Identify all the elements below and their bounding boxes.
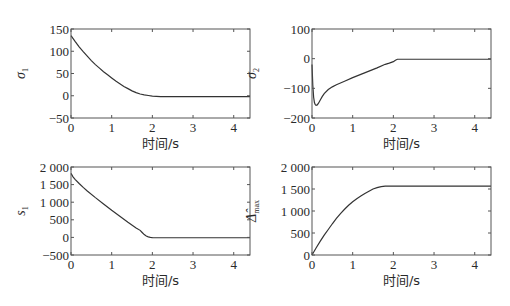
- y-tick-label: −50: [49, 111, 69, 126]
- x-tick-label: 2: [390, 120, 397, 135]
- y-tick-label: 150: [50, 22, 70, 37]
- y-tick-label: −500: [42, 248, 69, 263]
- y-tick-label: 0: [304, 51, 311, 66]
- x-tick-label: 3: [190, 257, 197, 272]
- x-tick-label: 3: [431, 120, 438, 135]
- y-tick-label: 100: [291, 22, 311, 37]
- x-axis-label: 时间/s: [142, 136, 179, 151]
- y-tick-label: 1 000: [40, 195, 69, 210]
- y-axis-label: Δ̂max: [244, 200, 261, 223]
- data-line: [312, 186, 491, 255]
- x-tick-label: 2: [149, 257, 156, 272]
- y-axis-label: s1: [13, 206, 30, 215]
- x-tick-label: 1: [108, 257, 115, 272]
- y-tick-label: −100: [283, 81, 310, 96]
- x-axis-label: 时间/s: [142, 273, 179, 288]
- data-line: [71, 36, 250, 97]
- subplot-sigma1: 01234−50050100150时间/sσ1: [13, 22, 250, 152]
- x-tick-label: 4: [230, 120, 237, 135]
- y-tick-label: 0: [63, 88, 70, 103]
- y-tick-label: 0: [63, 230, 70, 245]
- axes-frame: [312, 167, 491, 255]
- y-tick-label: −200: [283, 111, 310, 126]
- y-tick-label: 100: [50, 44, 70, 59]
- y-tick-label: 50: [56, 66, 69, 81]
- y-tick-label: 500: [50, 212, 70, 227]
- y-tick-label: 1 000: [281, 204, 310, 219]
- x-tick-label: 4: [471, 120, 478, 135]
- x-axis-label: 时间/s: [383, 136, 420, 151]
- subplot-delta-max: 0123405001 0001 5002 000时间/sΔ̂max: [244, 160, 491, 289]
- subplot-sigma2: 01234−200−1000100时间/sσ2: [244, 22, 491, 152]
- axes-frame: [312, 29, 491, 118]
- x-tick-label: 3: [431, 257, 438, 272]
- x-tick-label: 1: [349, 257, 356, 272]
- data-line: [71, 173, 250, 237]
- x-tick-label: 3: [190, 120, 197, 135]
- x-axis-label: 时间/s: [383, 273, 420, 288]
- axes-frame: [71, 29, 250, 118]
- x-tick-label: 4: [471, 257, 478, 272]
- y-tick-label: 1 500: [281, 182, 310, 197]
- y-tick-label: 2 000: [40, 160, 69, 175]
- y-tick-label: 0: [304, 248, 311, 263]
- y-axis-label: σ1: [13, 68, 30, 79]
- y-tick-label: 1 500: [40, 177, 69, 192]
- x-tick-label: 2: [149, 120, 156, 135]
- subplot-s1: 01234−50005001 0001 5002 000时间/ss1: [13, 160, 250, 289]
- y-tick-label: 500: [291, 226, 311, 241]
- axes-frame: [71, 167, 250, 255]
- y-axis-label: σ2: [244, 68, 261, 79]
- y-tick-label: 2 000: [281, 160, 310, 175]
- x-tick-label: 1: [108, 120, 115, 135]
- x-tick-label: 4: [230, 257, 237, 272]
- x-tick-label: 1: [349, 120, 356, 135]
- data-line: [312, 59, 491, 105]
- figure: 01234−50050100150时间/sσ1 01234−200−100010…: [0, 0, 510, 306]
- x-tick-label: 2: [390, 257, 397, 272]
